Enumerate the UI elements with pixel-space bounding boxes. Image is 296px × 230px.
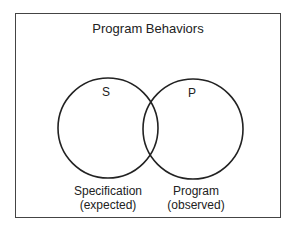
program-caption-line2: (observed) xyxy=(141,198,251,212)
set-label-s: S xyxy=(102,85,110,99)
program-caption-line1: Program xyxy=(141,184,251,198)
program-caption: Program (observed) xyxy=(141,184,251,212)
set-label-p: P xyxy=(188,86,196,100)
